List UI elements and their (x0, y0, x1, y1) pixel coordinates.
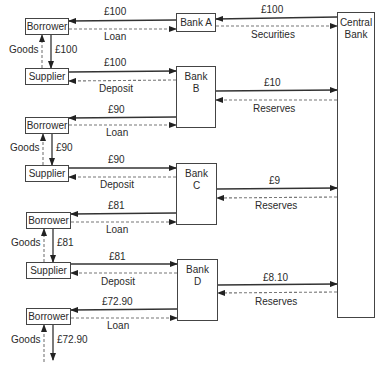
borrower-1-node: Borrower (25, 18, 69, 35)
bank-d-label-line1: Bank (178, 264, 217, 276)
bank-b-label-line1: Bank (177, 71, 215, 83)
goods-2-label: Goods (10, 142, 39, 153)
bank-c-label-line1: Bank (177, 168, 216, 180)
bank-d-label-line2: D (178, 276, 217, 288)
reserves-b-label: Reserves (253, 103, 295, 114)
cb-to-bank-a-amount: £100 (261, 4, 283, 15)
borrower-4-label: Borrower (28, 311, 69, 323)
deposit-2-label: Deposit (100, 179, 134, 190)
central-bank-label-line2: Bank (338, 29, 374, 41)
bank-c-label-line2: C (177, 180, 216, 192)
borrower-4-node: Borrower (26, 308, 71, 325)
securities-label: Securities (251, 29, 295, 40)
borrower-4-onward-amount: £72.90 (57, 334, 88, 345)
bank-c-node: Bank C (176, 163, 217, 225)
supplier-3-label: Supplier (30, 265, 67, 277)
central-bank-node: Central Bank (337, 12, 375, 318)
borrower-3-node: Borrower (26, 212, 71, 229)
loan-4-label: Loan (107, 320, 129, 331)
borrower-3-label: Borrower (28, 215, 69, 227)
bank-a-label: Bank A (180, 17, 212, 29)
loan-2-label: Loan (106, 127, 128, 138)
bank-a-node: Bank A (176, 13, 216, 32)
bank-d-to-cb-amount: £8.10 (263, 272, 288, 283)
bank-b-to-borrower-2-amount: £90 (108, 104, 125, 115)
supplier-3-to-bank-d-amount: £81 (109, 251, 126, 262)
bank-d-to-borrower-4-amount: £72.90 (102, 296, 133, 307)
supplier-2-node: Supplier (25, 165, 69, 182)
bank-b-node: Bank B (176, 66, 216, 128)
loan-3-label: Loan (106, 224, 128, 235)
supplier-2-to-bank-c-amount: £90 (108, 154, 125, 165)
bank-d-node: Bank D (177, 259, 218, 321)
borrower-1-to-supplier-1-amount: £100 (55, 44, 77, 55)
deposit-1-label: Deposit (99, 83, 133, 94)
supplier-1-label: Supplier (29, 71, 66, 83)
bank-c-to-borrower-3-amount: £81 (108, 200, 125, 211)
supplier-1-to-bank-b-amount: £100 (104, 57, 126, 68)
supplier-2-label: Supplier (29, 168, 66, 180)
goods-3-label: Goods (11, 237, 40, 248)
reserves-c-label: Reserves (255, 200, 297, 211)
goods-4-label: Goods (11, 334, 40, 345)
borrower-3-to-supplier-3-amount: £81 (57, 237, 74, 248)
loan-1-label: Loan (104, 31, 126, 42)
borrower-2-label: Borrower (27, 120, 68, 132)
supplier-1-node: Supplier (25, 68, 69, 85)
borrower-2-to-supplier-2-amount: £90 (56, 142, 73, 153)
goods-1-label: Goods (9, 44, 38, 55)
central-bank-label-line1: Central (338, 17, 374, 29)
bank-b-to-cb-amount: £10 (264, 77, 281, 88)
borrower-2-node: Borrower (25, 117, 69, 134)
reserves-d-label: Reserves (255, 296, 297, 307)
borrower-1-label: Borrower (27, 21, 68, 33)
bank-c-to-cb-amount: £9 (269, 175, 280, 186)
supplier-3-node: Supplier (26, 262, 71, 279)
deposit-3-label: Deposit (101, 276, 135, 287)
bank-a-to-borrower-1-amount: £100 (104, 6, 126, 17)
bank-b-label-line2: B (177, 83, 215, 95)
